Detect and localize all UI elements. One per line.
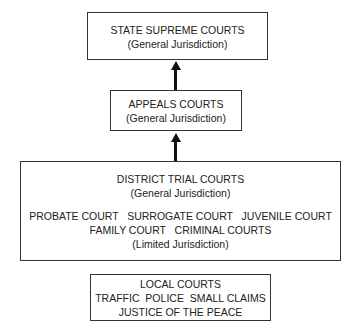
appeals-title: APPEALS COURTS bbox=[111, 97, 241, 111]
district-title: DISTRICT TRIAL COURTS bbox=[21, 172, 340, 186]
arrow-appeals-to-supreme bbox=[174, 68, 177, 90]
district-jurisdiction: (General Jurisdiction) bbox=[21, 186, 340, 200]
supreme-title: STATE SUPREME COURTS bbox=[88, 23, 267, 37]
arrow-district-to-appeals bbox=[174, 140, 177, 161]
limited-jurisdiction: (Limited Jurisdiction) bbox=[21, 237, 340, 251]
appeals-courts-box: APPEALS COURTS (General Jurisdiction) bbox=[110, 90, 242, 131]
local-title: LOCAL COURTS bbox=[91, 277, 270, 291]
limited-courts-row1: PROBATE COURT SURROGATE COURT JUVENILE C… bbox=[21, 209, 340, 223]
district-trial-courts-box: DISTRICT TRIAL COURTS (General Jurisdict… bbox=[20, 161, 341, 261]
local-justice: JUSTICE OF THE PEACE bbox=[91, 305, 270, 319]
limited-courts-row2: FAMILY COURT CRIMINAL COURTS bbox=[21, 223, 340, 237]
state-supreme-courts-box: STATE SUPREME COURTS (General Jurisdicti… bbox=[87, 12, 268, 60]
supreme-jurisdiction: (General Jurisdiction) bbox=[88, 37, 267, 51]
appeals-jurisdiction: (General Jurisdiction) bbox=[111, 111, 241, 125]
local-courts-box: LOCAL COURTS TRAFFIC POLICE SMALL CLAIMS… bbox=[90, 274, 271, 321]
local-types: TRAFFIC POLICE SMALL CLAIMS bbox=[91, 291, 270, 305]
